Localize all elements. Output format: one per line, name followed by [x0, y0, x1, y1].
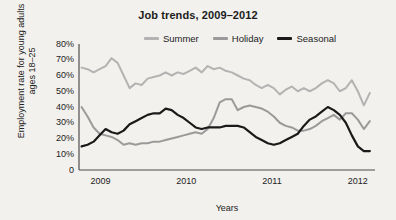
chart-figure: Job trends, 2009–2012 Summer Holiday Sea…: [0, 0, 396, 220]
x-axis-title: Years: [79, 203, 375, 213]
plot-area: [0, 0, 396, 220]
series-line-holiday: [82, 99, 370, 145]
